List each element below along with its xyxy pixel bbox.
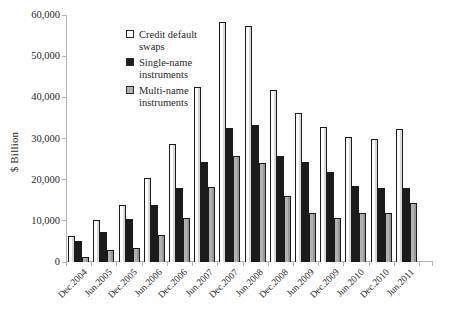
y-tick-mark (62, 220, 66, 221)
bar-multi-name (82, 257, 89, 262)
bar-multi-name (334, 218, 341, 262)
bar-group (295, 113, 316, 262)
y-axis-line (66, 15, 67, 262)
x-tick-mark (116, 262, 117, 266)
bar-cds (396, 129, 403, 262)
bar-cds (345, 137, 352, 262)
bar-multi-name (233, 156, 240, 262)
bar-single-name (378, 188, 385, 263)
bar-multi-name (107, 250, 114, 262)
legend-item-multi-name-instruments: Multi-name instruments (126, 85, 219, 109)
legend-item-single-name-instruments: Single-name instruments (126, 57, 219, 81)
x-tick-mark (369, 262, 370, 266)
legend-label: Multi-name instruments (139, 85, 219, 109)
bar-single-name (151, 205, 158, 262)
bar-multi-name (158, 235, 165, 262)
bar-single-name (100, 232, 107, 262)
bar-group (194, 87, 215, 262)
x-tick-mark (432, 262, 433, 266)
bar-single-name (201, 162, 208, 262)
bar-group (245, 26, 266, 262)
bar-cds (119, 205, 126, 262)
legend-label: Credit default swaps (139, 29, 219, 53)
bar-group (270, 90, 291, 262)
bar-multi-name (410, 203, 417, 262)
bar-cds (371, 139, 378, 262)
bar-cds (245, 26, 252, 262)
bar-single-name (327, 172, 334, 262)
x-tick-mark (268, 262, 269, 266)
bar-single-name (176, 188, 183, 262)
bar-group (119, 205, 140, 262)
x-tick-mark (192, 262, 193, 266)
y-tick-mark (62, 138, 66, 139)
y-tick-label: 0 (0, 256, 60, 268)
bar-group (68, 236, 89, 262)
x-tick-mark (167, 262, 168, 266)
legend-swatch-icon (126, 30, 134, 38)
legend-swatch-icon (126, 86, 134, 94)
legend-swatch-icon (126, 58, 134, 66)
bar-group (345, 137, 366, 262)
x-tick-mark (142, 262, 143, 266)
x-axis-label: Dec.2004 (56, 267, 89, 300)
bar-cds (219, 22, 226, 262)
bar-cds (144, 178, 151, 262)
x-tick-mark (66, 262, 67, 266)
y-tick-label: 30,000 (0, 133, 60, 145)
x-tick-mark (293, 262, 294, 266)
cds-bar-chart: $ Billion Dec.2004Jun.2005Dec.2005Jun.20… (0, 0, 453, 310)
bar-single-name (277, 156, 284, 262)
x-tick-mark (243, 262, 244, 266)
bar-group (371, 139, 392, 262)
bar-group (320, 127, 341, 262)
y-tick-label: 40,000 (0, 91, 60, 103)
bar-multi-name (359, 213, 366, 262)
legend-item-credit-default-swaps: Credit default swaps (126, 29, 219, 53)
y-tick-label: 60,000 (0, 9, 60, 21)
bar-group (169, 144, 190, 262)
x-tick-mark (217, 262, 218, 266)
bar-group (144, 178, 165, 262)
legend: Credit default swaps Single-name instrum… (126, 29, 219, 109)
bar-cds (270, 90, 277, 262)
x-tick-mark (394, 262, 395, 266)
x-tick-mark (318, 262, 319, 266)
bar-group (93, 220, 114, 262)
legend-label: Single-name instruments (139, 57, 219, 81)
bar-multi-name (284, 196, 291, 262)
bar-cds (93, 220, 100, 262)
bar-single-name (226, 128, 233, 262)
x-tick-mark (343, 262, 344, 266)
bar-group (396, 129, 417, 262)
bar-cds (169, 144, 176, 262)
x-tick-mark (419, 262, 420, 266)
bar-cds (320, 127, 327, 262)
bar-multi-name (309, 213, 316, 262)
bar-single-name (252, 125, 259, 262)
y-tick-label: 20,000 (0, 174, 60, 186)
bar-multi-name (183, 218, 190, 262)
plot-area: Dec.2004Jun.2005Dec.2005Jun.2006Dec.2006… (66, 15, 433, 262)
bar-multi-name (208, 187, 215, 262)
x-tick-mark (91, 262, 92, 266)
bar-cds (68, 236, 75, 262)
bar-single-name (126, 219, 133, 262)
y-axis-title: $ Billion (8, 102, 20, 202)
y-tick-mark (62, 97, 66, 98)
bar-single-name (302, 162, 309, 262)
y-tick-label: 50,000 (0, 50, 60, 62)
bar-single-name (403, 188, 410, 263)
bar-single-name (75, 241, 82, 262)
y-tick-mark (62, 15, 66, 16)
y-tick-label: 10,000 (0, 215, 60, 227)
bar-multi-name (133, 248, 140, 262)
bar-cds (295, 113, 302, 262)
bar-cds (194, 87, 201, 262)
y-tick-mark (62, 179, 66, 180)
bar-single-name (352, 186, 359, 262)
bar-group (219, 22, 240, 262)
bar-multi-name (385, 213, 392, 262)
y-tick-mark (62, 56, 66, 57)
bar-multi-name (259, 163, 266, 262)
